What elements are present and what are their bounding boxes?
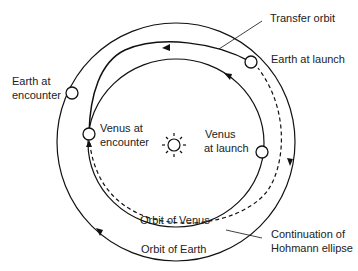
venus-at-encounter-marker — [83, 128, 95, 140]
label-venus-at-encounter-1: Venus at — [100, 121, 143, 135]
earth-at-encounter-marker — [66, 87, 78, 99]
arrow-icon — [224, 73, 232, 80]
leader-continuation — [226, 230, 262, 238]
label-orbit-of-venus: Orbit of Venus — [140, 213, 210, 227]
label-orbit-of-earth: Orbit of Earth — [141, 242, 206, 256]
transfer-orbit — [89, 42, 251, 133]
leader-transfer-orbit — [219, 21, 262, 49]
arrow-icon — [162, 44, 170, 51]
arrow-icon — [287, 158, 293, 166]
label-earth-at-encounter-2: encounter — [12, 88, 61, 102]
label-continuation-2: Hohmann ellipse — [271, 241, 353, 255]
venus-at-launch-marker — [256, 146, 268, 158]
label-continuation-1: Continuation of — [271, 227, 345, 241]
label-earth-at-launch: Earth at launch — [271, 52, 345, 66]
sun-icon — [162, 133, 186, 157]
label-earth-at-encounter-1: Earth at — [12, 74, 51, 88]
label-venus-at-launch-1: Venus — [205, 127, 236, 141]
earth-at-launch-marker — [245, 56, 257, 68]
arrow-icon — [86, 140, 92, 147]
hohmann-transfer-diagram: Transfer orbit Earth at launch Earth at … — [0, 0, 358, 271]
label-venus-at-launch-2: at launch — [204, 141, 249, 155]
label-venus-at-encounter-2: encounter — [100, 135, 149, 149]
label-transfer-orbit: Transfer orbit — [270, 11, 335, 25]
